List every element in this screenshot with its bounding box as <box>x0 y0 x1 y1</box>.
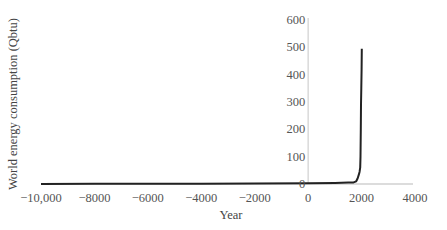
y-tick-label: 100 <box>286 150 305 164</box>
x-axis-title: Year <box>219 208 243 222</box>
y-tick-label: 600 <box>286 13 305 27</box>
y-tick-label: 300 <box>286 95 305 109</box>
x-tick-label: −8000 <box>78 191 110 205</box>
y-axis-tick-labels: 0100200300400500600 <box>286 13 305 191</box>
x-tick-label: −4000 <box>185 191 217 205</box>
y-axis-title: World energy consumption (Qbtu) <box>6 18 20 190</box>
energy-consumption-chart: −10,000−8000−6000−4000−2000020004000 010… <box>0 0 447 230</box>
x-tick-label: 4000 <box>403 191 428 205</box>
y-tick-label: 400 <box>286 68 305 82</box>
x-tick-label: −6000 <box>132 191 164 205</box>
series-line <box>41 49 362 184</box>
x-tick-label: −2000 <box>239 191 271 205</box>
y-tick-label: 0 <box>299 177 305 191</box>
x-axis-tick-labels: −10,000−8000−6000−4000−2000020004000 <box>20 191 427 205</box>
x-tick-label: −10,000 <box>20 191 61 205</box>
data-series-line <box>41 49 362 184</box>
y-tick-label: 500 <box>286 40 305 54</box>
x-tick-label: 2000 <box>349 191 374 205</box>
x-tick-label: 0 <box>305 191 311 205</box>
y-tick-label: 200 <box>286 122 305 136</box>
